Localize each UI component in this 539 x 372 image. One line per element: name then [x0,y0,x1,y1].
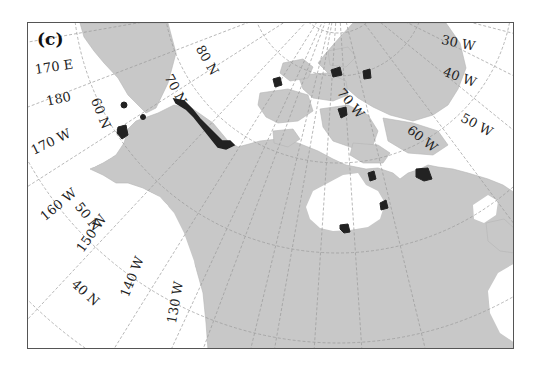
map-canvas [28,23,514,349]
map-frame: (c) 80 N 70 N 60 N 50 N 40 N 170 E 180 1… [27,22,514,349]
panel-label: (c) [37,29,63,49]
